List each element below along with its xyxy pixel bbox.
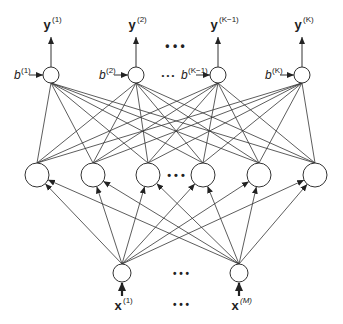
input-label-superscript: (1) <box>123 296 133 305</box>
connection-line <box>218 83 315 163</box>
connection-arrow <box>97 186 122 264</box>
hidden-node-3 <box>136 163 160 187</box>
output-label: y <box>210 17 218 32</box>
connection-line <box>37 83 218 163</box>
bias-label: b <box>99 68 106 82</box>
output-node-3: y(K−1)b(K−1) <box>181 15 239 83</box>
connection-line <box>37 83 302 163</box>
output-node-4: y(K)b(K) <box>265 15 314 83</box>
input-ellipsis-nodes: • • • <box>173 268 190 279</box>
connection-arrow <box>103 181 239 264</box>
output-ellipsis-bias: • • • <box>162 71 175 80</box>
bias-label: b <box>14 68 21 82</box>
bias-label: b <box>265 68 272 82</box>
input-to-hidden-connections <box>45 180 307 264</box>
connection-line <box>37 83 51 163</box>
connection-line <box>259 83 302 163</box>
hidden-node-4 <box>191 163 215 187</box>
output-label-superscript: (K) <box>303 15 314 24</box>
output-node-1: y(1)b(1) <box>14 15 62 83</box>
input-neuron-circle <box>230 264 248 282</box>
hidden-ellipsis: • • • <box>167 169 185 181</box>
neural-network-diagram: y(1)b(1)y(2)b(2)y(K−1)b(K−1)y(K)b(K) x(1… <box>0 0 343 324</box>
connection-arrow <box>122 187 145 264</box>
connection-arrow <box>239 187 256 264</box>
input-label: x <box>231 298 239 313</box>
bias-label-superscript: (K−1) <box>188 66 208 75</box>
input-neuron-circle <box>113 264 131 282</box>
input-label: x <box>114 298 122 313</box>
connection-line <box>302 83 315 163</box>
hidden-node-2 <box>81 163 105 187</box>
hidden-node-6 <box>303 163 327 187</box>
connection-line <box>93 83 302 163</box>
output-label: y <box>294 17 302 32</box>
output-neuron-circle <box>210 67 226 83</box>
output-label: y <box>43 17 51 32</box>
connection-arrow <box>239 184 307 264</box>
output-label-superscript: (K−1) <box>219 15 239 24</box>
bias-label-superscript: (2) <box>106 66 116 75</box>
input-label-superscript: (M) <box>240 296 252 305</box>
input-node-1: x(1) <box>113 264 133 313</box>
hidden-node-5 <box>247 163 271 187</box>
connection-line <box>148 83 302 163</box>
input-node-2: x(M) <box>230 264 252 313</box>
output-label: y <box>128 17 136 32</box>
output-neuron-circle <box>43 67 59 83</box>
output-neuron-circle <box>128 67 144 83</box>
hidden-to-output-connections <box>37 83 315 163</box>
output-ellipsis-top: • • • <box>165 39 184 53</box>
connection-line <box>203 83 218 163</box>
hidden-node-1 <box>25 163 49 187</box>
connection-line <box>93 83 218 163</box>
output-node-2: y(2)b(2) <box>99 15 147 83</box>
bias-label-superscript: (K) <box>272 66 283 75</box>
connection-arrow <box>157 183 239 264</box>
output-label-superscript: (2) <box>137 15 147 24</box>
output-neuron-circle <box>294 67 310 83</box>
connection-line <box>148 83 218 163</box>
bias-label: b <box>181 68 188 82</box>
network-svg: y(1)b(1)y(2)b(2)y(K−1)b(K−1)y(K)b(K) x(1… <box>0 0 343 324</box>
output-label-superscript: (1) <box>52 15 62 24</box>
input-ellipsis-labels: • • • <box>173 299 190 310</box>
bias-label-superscript: (1) <box>21 66 31 75</box>
connection-arrow <box>122 180 304 264</box>
